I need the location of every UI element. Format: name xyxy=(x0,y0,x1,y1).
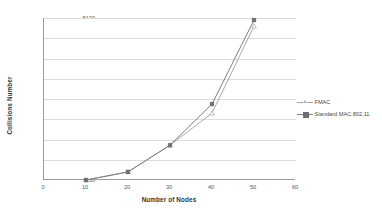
data-point-marker xyxy=(84,178,88,182)
data-point-marker xyxy=(168,143,172,147)
x-tick-label: 10 xyxy=(73,184,97,190)
x-tick-label: 20 xyxy=(115,184,139,190)
data-point-marker xyxy=(252,18,256,22)
x-tick-label: 0 xyxy=(31,184,55,190)
chart-container: Collisions Number 1301130213031304130513… xyxy=(0,0,382,211)
legend-item[interactable]: FMAC xyxy=(297,96,382,108)
x-tick-label: 30 xyxy=(157,184,181,190)
series-fmac xyxy=(84,24,257,182)
x-tick-label: 40 xyxy=(199,184,223,190)
y-axis-title: Collisions Number xyxy=(0,0,18,211)
legend-label: FMAC xyxy=(315,99,331,106)
x-tick-label: 50 xyxy=(241,184,265,190)
triangle-marker-icon xyxy=(297,98,313,107)
x-tick-label: 60 xyxy=(283,184,307,190)
chart-legend: FMACStandard MAC 802.11 xyxy=(297,96,382,120)
legend-item[interactable]: Standard MAC 802.11 xyxy=(297,108,382,120)
data-series-layer xyxy=(44,18,296,180)
data-point-marker xyxy=(210,102,214,106)
series-line xyxy=(86,20,254,180)
x-axis-title: Number of Nodes xyxy=(43,196,295,203)
series-line xyxy=(86,26,254,180)
plot-area xyxy=(43,18,295,180)
data-point-marker xyxy=(252,24,257,28)
square-marker-icon xyxy=(297,110,313,119)
data-point-marker xyxy=(210,111,215,115)
data-point-marker xyxy=(126,170,130,174)
legend-label: Standard MAC 802.11 xyxy=(315,111,370,118)
series-standard-mac-802-11 xyxy=(84,18,256,182)
